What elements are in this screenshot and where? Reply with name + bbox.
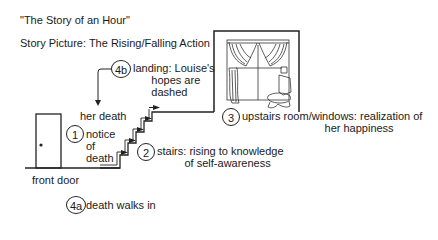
stage-2-text: stairs: rising to knowledge of self-awar…	[157, 145, 284, 169]
stage-1-text: notice of death	[86, 128, 115, 164]
her-death-label: her death	[80, 110, 126, 122]
front-door-label: front door	[32, 174, 79, 186]
stage-2-number: 2	[137, 143, 155, 161]
stage-3-number: 3	[222, 108, 240, 126]
stage-3-text: upstairs room/windows: realization of he…	[242, 110, 422, 134]
door-icon	[36, 114, 61, 168]
arrow-down-icon	[95, 69, 112, 106]
stage-4a-number: 4a	[66, 196, 86, 214]
curtained-window-icon	[227, 40, 291, 108]
stage-4a-text: death walks in	[86, 199, 156, 211]
stage-1-number: 1	[66, 125, 84, 143]
stage-4b-text: landing: Louise's hopes are dashed	[133, 62, 215, 98]
stage-4b-number: 4b	[111, 60, 131, 78]
